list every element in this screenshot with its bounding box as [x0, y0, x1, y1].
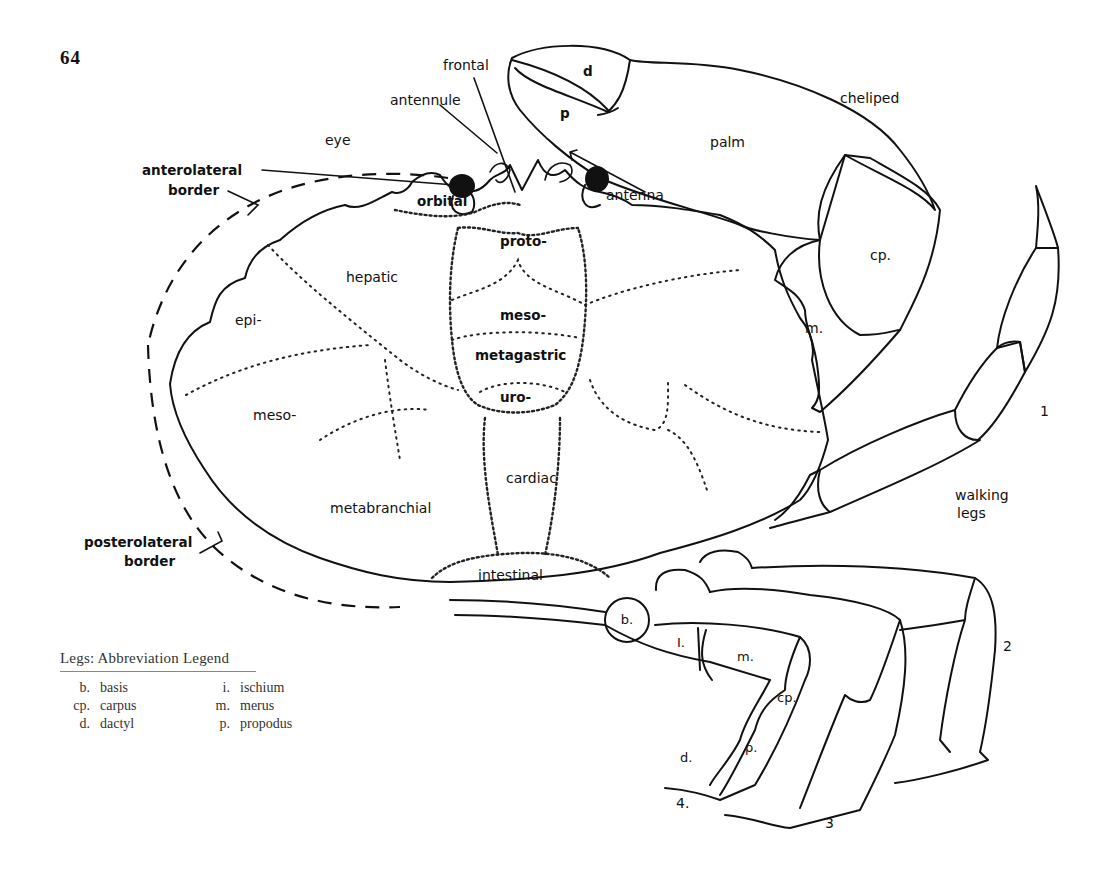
leg2: [752, 566, 996, 783]
label-posterolateral-border: border: [124, 553, 175, 569]
label-posterolateral: posterolateral: [84, 534, 192, 550]
label-antenna: antenna: [606, 187, 664, 203]
region-orbital: orbital: [417, 193, 467, 209]
legend-term: propodus: [240, 716, 330, 732]
anterolateral-border-dash: [148, 174, 448, 345]
region-epi: epi-: [235, 312, 261, 328]
hepatic-right-boundary: [585, 270, 740, 305]
anterolateral-pointer: [228, 191, 258, 215]
leg-merus-abbr: m.: [737, 649, 754, 664]
legend-grid: b. basis i. ischium cp. carpus m. merus …: [60, 680, 330, 732]
cheliped-carpus-abbr: cp.: [870, 247, 891, 263]
legend-term: merus: [240, 698, 330, 714]
label-anterolateral-border: border: [168, 182, 219, 198]
leg-carpus-abbr: cp.: [777, 690, 797, 705]
leg-ischium-abbr: I.: [677, 635, 685, 650]
label-frontal: frontal: [443, 57, 489, 73]
region-intestinal: intestinal: [478, 567, 543, 583]
branchial-boundary-left: [320, 360, 430, 460]
leg-propodus-abbr: p.: [745, 740, 757, 755]
cheliped-merus: [775, 240, 900, 412]
antennule-pointer: [440, 105, 497, 153]
region-proto: proto-: [500, 233, 547, 249]
label-legs: legs: [957, 505, 986, 521]
label-cheliped: cheliped: [840, 90, 899, 106]
region-hepatic: hepatic: [346, 269, 398, 285]
leg1-dactyl: [1036, 186, 1058, 248]
abbreviation-legend: Legs: Abbreviation Legend b. basis i. is…: [60, 650, 330, 732]
branchial-boundary-right: [590, 380, 820, 490]
legend-term: ischium: [240, 680, 330, 696]
legend-title: Legs: Abbreviation Legend: [60, 650, 256, 672]
label-walking: walking: [955, 487, 1009, 503]
label-anterolateral: anterolateral: [142, 162, 242, 178]
legend-abbr: b.: [60, 680, 90, 696]
label-antennule: antennule: [390, 92, 461, 108]
posterolateral-border-dash: [148, 345, 400, 607]
legend-term: carpus: [100, 698, 190, 714]
leg-dactyl-abbr: d.: [680, 750, 692, 765]
cardiac-outline: [484, 418, 560, 555]
leg-number-2: 2: [1003, 638, 1012, 654]
legend-abbr: i.: [200, 680, 230, 696]
legend-abbr: d.: [60, 716, 90, 732]
leg-number-4: 4.: [676, 795, 689, 811]
leg-number-3: 3: [825, 815, 834, 831]
epi-meso-boundary: [186, 345, 370, 395]
region-metagastric: metagastric: [475, 347, 566, 363]
leg-bases: [450, 550, 752, 625]
proto-meso-boundary: [452, 260, 585, 305]
cheliped-dactyl-line: [512, 60, 608, 110]
carapace-outline: [170, 160, 828, 582]
cheliped-merus-abbr: m.: [805, 320, 823, 336]
leg1-propodus: [997, 248, 1059, 372]
legend-term: basis: [100, 680, 190, 696]
frontal-pointer: [474, 78, 515, 192]
meso-meta-boundary: [452, 332, 580, 340]
region-meso-gastric: meso-: [500, 307, 546, 323]
crab-anatomy-diagram: frontal antennule eye antenna anterolate…: [0, 0, 1109, 876]
region-cardiac: cardiac: [506, 470, 557, 486]
legend-term: dactyl: [100, 716, 190, 732]
region-uro: uro-: [500, 389, 531, 405]
cheliped-dactyl-abbr: d: [583, 63, 593, 79]
cheliped-palm: palm: [710, 134, 745, 150]
eye-pointer: [262, 170, 455, 185]
leg-basis-abbr: b.: [621, 612, 633, 627]
cheliped-propodus-abbr: p: [560, 105, 570, 121]
leg1-carpus: [955, 342, 1025, 440]
leg-number-1: 1: [1040, 403, 1049, 419]
legend-abbr: m.: [200, 698, 230, 714]
legend-abbr: cp.: [60, 698, 90, 714]
label-eye: eye: [325, 132, 351, 148]
region-metabranchial: metabranchial: [330, 500, 431, 516]
legend-abbr: p.: [200, 716, 230, 732]
cheliped-propodus-line: [515, 60, 630, 112]
region-meso-branchial: meso-: [253, 407, 296, 423]
hepatic-boundary: [268, 245, 458, 390]
